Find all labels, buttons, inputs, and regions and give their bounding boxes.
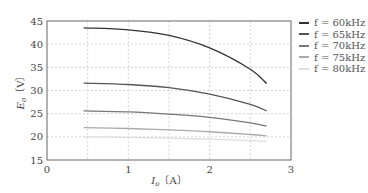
legend-label: f = 65kHz <box>314 29 365 41</box>
y-tick-label: 30 <box>30 85 43 96</box>
x-tick-label: 3 <box>288 164 294 175</box>
legend-item-75khz: f = 75kHz <box>299 52 365 64</box>
legend: f = 60kHz f = 65kHz f = 70kHz f = 75kHz … <box>299 17 365 75</box>
legend-swatch <box>299 22 309 24</box>
legend-label: f = 80kHz <box>314 63 365 75</box>
legend-item-60khz: f = 60kHz <box>299 17 365 29</box>
legend-swatch <box>299 56 309 58</box>
series-line <box>84 83 267 111</box>
series-line <box>84 128 267 136</box>
y-tick-label: 15 <box>30 155 43 166</box>
grid-lines <box>47 21 291 160</box>
legend-swatch <box>299 45 309 47</box>
legend-label: f = 60kHz <box>314 17 365 29</box>
legend-label: f = 70kHz <box>314 40 365 52</box>
legend-label: f = 75kHz <box>314 52 365 64</box>
series-line <box>84 28 267 84</box>
x-tick-label: 2 <box>206 164 212 175</box>
series-line <box>84 111 267 126</box>
y-tick-label: 25 <box>30 108 43 119</box>
x-tick-label: 0 <box>44 164 50 175</box>
legend-item-65khz: f = 65kHz <box>299 29 365 41</box>
legend-swatch <box>299 68 309 70</box>
x-tick-labels: 0123 <box>44 164 294 175</box>
legend-swatch <box>299 33 309 35</box>
legend-item-80khz: f = 80kHz <box>299 63 365 75</box>
y-tick-label: 45 <box>30 16 43 27</box>
y-tick-labels: 15202530354045 <box>30 16 43 166</box>
legend-item-70khz: f = 70kHz <box>299 40 365 52</box>
y-tick-label: 35 <box>30 62 43 73</box>
x-tick-label: 1 <box>125 164 131 175</box>
series-line <box>84 137 267 142</box>
y-axis-label: Eo〔V〕 <box>15 71 28 111</box>
y-tick-label: 20 <box>30 131 43 142</box>
data-series <box>84 28 267 142</box>
y-tick-label: 40 <box>30 39 43 50</box>
x-axis-label: Io〔A〕 <box>150 175 186 188</box>
